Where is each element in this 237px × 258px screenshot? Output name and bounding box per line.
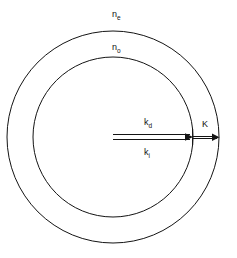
inner-index-label: no (112, 42, 121, 54)
K-base: K (202, 119, 208, 129)
k-d-label: kd (144, 117, 153, 129)
outer-index-label: ne (112, 9, 121, 21)
K-vector-arrowhead (212, 134, 220, 141)
k-d-sub: d (149, 122, 153, 129)
inner-index-sub: o (117, 47, 121, 54)
index-surface-diagram: ne no kd ki K (0, 0, 237, 258)
k-i-sub: i (149, 152, 150, 159)
k-i-label: ki (144, 147, 150, 159)
figure-container: ne no kd ki K (0, 0, 237, 258)
outer-index-sub: e (117, 14, 121, 21)
inner-circle-no (33, 57, 193, 217)
K-label: K (202, 119, 208, 129)
